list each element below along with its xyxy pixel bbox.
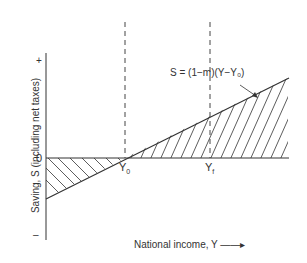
arrowhead-icon [252, 92, 258, 98]
saving-diagram: + 0 – Y0 Yf S = (1−m)(Y−Y₀) Saving, S (i… [0, 0, 307, 263]
diagram-graphics [0, 0, 307, 263]
x-axis-label: National income, Y ——▸ [134, 239, 245, 250]
marker-y0: Y0 [119, 161, 130, 175]
saving-equation: S = (1−m)(Y−Y₀) [170, 67, 244, 78]
marker-yf-sub: f [212, 168, 214, 175]
y-axis-label: Saving, S (including net taxes) [30, 51, 41, 241]
saving-hatch [130, 70, 307, 160]
marker-y0-sub: 0 [126, 168, 130, 175]
marker-yf: Yf [205, 161, 214, 175]
